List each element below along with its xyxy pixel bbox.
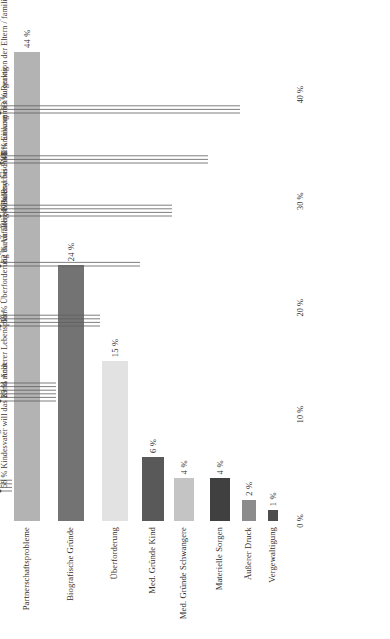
bar-value-label: 44 %	[22, 29, 32, 48]
category-label-3: Überforderung	[109, 527, 119, 637]
annotation-text: 83 % Reaktion der Eltern / familiärer Dr…	[0, 0, 9, 110]
category-label-1: Partnerschaftsprobleme	[21, 527, 31, 637]
category-label-8: Vergewaltigung	[267, 527, 277, 637]
leader-lines	[0, 51, 310, 521]
bar-chart-figure: 44 %Partnerschaftsprobleme24 %Biografisc…	[0, 0, 390, 639]
category-label-2: Biografische Gründe	[65, 527, 75, 637]
annotation-text: 16 % Druck durch Dritte (z.B. Freunde / …	[0, 0, 1, 106]
category-label-7: Äußerer Druck	[243, 527, 253, 637]
rotated-figure-wrapper: 44 %Partnerschaftsprobleme24 %Biografisc…	[0, 0, 390, 639]
annotation-group-7: 83 % Reaktion der Eltern / familiärer Dr…	[14, 51, 304, 521]
category-label-6: Materielle Sorgen	[214, 527, 224, 637]
plot-area: 44 %Partnerschaftsprobleme24 %Biografisc…	[14, 51, 304, 521]
category-label-5: Med. Gründe Schwangere	[178, 527, 188, 637]
category-label-4: Med. Gründe Kind	[147, 527, 157, 637]
